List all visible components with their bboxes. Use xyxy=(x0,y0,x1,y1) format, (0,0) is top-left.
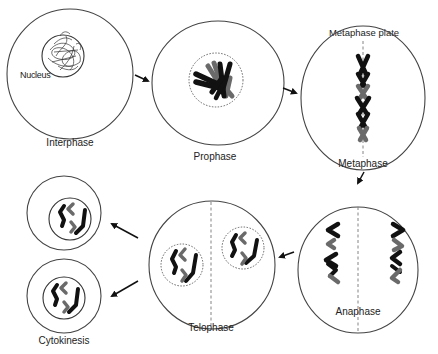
telophase-chromosomes-right-icon xyxy=(232,233,257,264)
metaphase-stage: Metaphase plate Metaphase xyxy=(301,26,425,170)
cytokinesis-stage: Cytokinesis xyxy=(27,176,101,346)
arrow-interphase-to-prophase xyxy=(135,75,148,81)
arrow-metaphase-to-anaphase xyxy=(358,172,364,183)
separating-chromosomes-left-icon xyxy=(326,224,338,282)
nucleus-callout: Nucleus xyxy=(20,70,51,80)
telophase-chromosomes-left-icon xyxy=(172,249,196,281)
prophase-stage: Prophase xyxy=(152,21,284,162)
arrow-prophase-to-metaphase xyxy=(283,88,296,93)
arrow-telophase-to-cytokinesis-top xyxy=(112,224,138,238)
cell-division-diagram: Nucleus Interphase Prophase Metaphase pl… xyxy=(0,0,438,354)
telophase-stage: Telophase xyxy=(149,201,275,333)
arrow-anaphase-to-telophase xyxy=(280,252,294,257)
interphase-label: Interphase xyxy=(46,137,94,148)
cytokinesis-label: Cytokinesis xyxy=(38,335,89,346)
daughter-cell-bottom xyxy=(27,259,101,333)
telophase-label: Telophase xyxy=(188,322,234,333)
metaphase-label: Metaphase xyxy=(338,158,388,169)
arrow-telophase-to-cytokinesis-bottom xyxy=(112,281,138,296)
daughter-chromosomes-bottom-icon xyxy=(53,283,78,312)
anaphase-label: Anaphase xyxy=(335,306,380,317)
interphase-stage: Nucleus Interphase xyxy=(7,9,133,148)
anaphase-stage: Anaphase xyxy=(298,207,418,333)
daughter-chromosomes-top-icon xyxy=(60,204,85,233)
telophase-cell xyxy=(149,201,275,329)
separating-chromosomes-right-icon xyxy=(392,224,403,282)
condensed-chromosomes-icon xyxy=(196,63,232,98)
prophase-label: Prophase xyxy=(194,151,237,162)
